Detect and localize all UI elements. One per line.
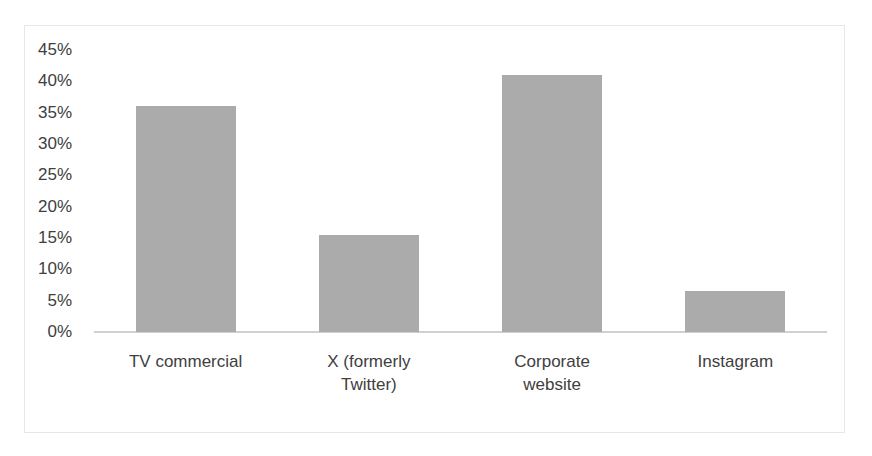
x-tick-label-line: Corporate bbox=[467, 350, 637, 373]
y-tick-label: 45% bbox=[12, 40, 72, 60]
x-tick-label-line: TV commercial bbox=[101, 350, 271, 373]
x-tick-label-line: Instagram bbox=[650, 350, 820, 373]
x-tick-label: Instagram bbox=[650, 350, 820, 373]
x-tick-label: Corporatewebsite bbox=[467, 350, 637, 396]
y-tick-label: 10% bbox=[12, 259, 72, 279]
y-tick-label: 30% bbox=[12, 134, 72, 154]
y-tick-label: 20% bbox=[12, 197, 72, 217]
bar-corporate-website bbox=[502, 75, 602, 332]
x-tick-label-line: website bbox=[467, 373, 637, 396]
x-tick-label: TV commercial bbox=[101, 350, 271, 373]
bar-instagram bbox=[685, 291, 785, 332]
y-tick-label: 5% bbox=[12, 291, 72, 311]
y-tick-label: 25% bbox=[12, 165, 72, 185]
bar-tv-commercial bbox=[136, 106, 236, 332]
y-tick-label: 0% bbox=[12, 322, 72, 342]
y-tick-label: 15% bbox=[12, 228, 72, 248]
y-tick-label: 35% bbox=[12, 103, 72, 123]
x-tick-label-line: X (formerly bbox=[284, 350, 454, 373]
x-tick-label: X (formerlyTwitter) bbox=[284, 350, 454, 396]
bar-x-formerly-twitter bbox=[319, 235, 419, 332]
x-tick-label-line: Twitter) bbox=[284, 373, 454, 396]
y-tick-label: 40% bbox=[12, 71, 72, 91]
